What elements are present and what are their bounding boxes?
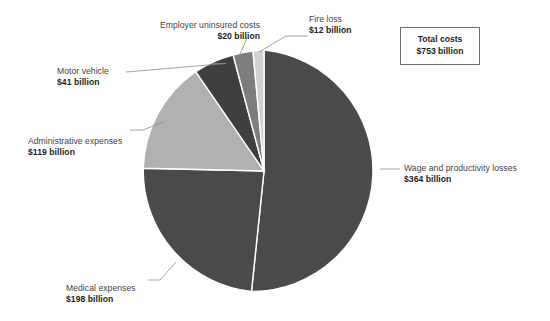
slice-wage-and-productivity-losses[interactable] [252,50,373,291]
leader-line-medical-expenses [148,262,176,280]
label-value-employer-uninsured-costs: $20 billion [100,31,260,42]
pie-chart-figure: Employer uninsured costs $20 billion Fir… [0,0,550,321]
label-employer-uninsured-costs: Employer uninsured costs $20 billion [100,20,260,43]
label-fire-loss: Fire loss $12 billion [309,14,352,37]
label-name-fire-loss: Fire loss [309,14,352,25]
label-name-medical-expenses: Medical expenses [66,283,136,294]
total-costs-value: $753 billion [407,46,473,58]
label-value-medical-expenses: $198 billion [66,294,136,305]
label-name-wage-and-productivity-losses: Wage and productivity losses [404,163,517,174]
total-costs-title: Total costs [407,34,473,46]
label-value-fire-loss: $12 billion [309,25,352,36]
label-wage-and-productivity-losses: Wage and productivity losses $364 billio… [404,163,517,186]
total-costs-box: Total costs $753 billion [400,27,480,65]
pie-slices [143,50,373,291]
slice-medical-expenses[interactable] [143,168,264,291]
label-medical-expenses: Medical expenses $198 billion [66,283,136,306]
label-name-employer-uninsured-costs: Employer uninsured costs [100,20,260,31]
label-value-administrative-expenses: $119 billion [28,147,122,158]
label-name-motor-vehicle: Motor vehicle [57,66,109,77]
label-value-motor-vehicle: $41 billion [57,77,109,88]
label-name-administrative-expenses: Administrative expenses [28,136,122,147]
label-administrative-expenses: Administrative expenses $119 billion [28,136,122,159]
label-value-wage-and-productivity-losses: $364 billion [404,174,517,185]
label-motor-vehicle: Motor vehicle $41 billion [57,66,109,89]
